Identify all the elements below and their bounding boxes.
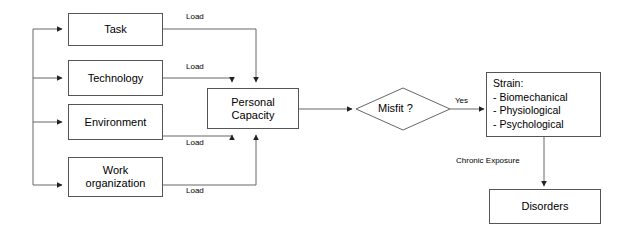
node-strain-title: Strain:	[493, 77, 600, 91]
node-personal-capacity: Personal Capacity	[207, 88, 299, 129]
edge-label-load-environment: Load	[186, 138, 204, 148]
edge-environment-to-capacity	[163, 135, 232, 136]
edge-label-chronic-exposure: Chronic Exposure	[456, 156, 520, 166]
flowchart-diagram: Task Technology Environment Work organiz…	[0, 0, 628, 233]
node-environment: Environment	[68, 104, 163, 140]
edge-label-load-task: Load	[186, 12, 204, 22]
edge-label-yes: Yes	[455, 96, 468, 106]
node-strain-item-physiological: - Physiological	[493, 104, 600, 118]
edge-label-load-work-organization: Load	[186, 186, 204, 196]
edge-technology-to-capacity	[163, 78, 232, 82]
node-strain: Strain: - Biomechanical - Physiological …	[486, 72, 601, 137]
node-task-label: Task	[104, 23, 127, 36]
node-technology-label: Technology	[88, 72, 144, 85]
node-personal-capacity-label: Personal Capacity	[231, 96, 274, 122]
node-technology: Technology	[68, 60, 163, 96]
node-disorders-label: Disorders	[521, 200, 568, 213]
edge-label-load-technology: Load	[186, 62, 204, 72]
edge-task-to-capacity	[163, 29, 256, 82]
node-work-organization-label: Work organization	[86, 164, 146, 190]
node-environment-label: Environment	[85, 116, 147, 129]
edge-work-organization-to-capacity	[163, 135, 256, 185]
node-strain-item-psychological: - Psychological	[493, 118, 600, 132]
node-misfit-label: Misfit ?	[378, 102, 413, 115]
node-strain-item-biomechanical: - Biomechanical	[493, 91, 600, 105]
node-task: Task	[68, 13, 163, 46]
node-work-organization: Work organization	[68, 157, 163, 197]
node-disorders: Disorders	[489, 189, 601, 224]
